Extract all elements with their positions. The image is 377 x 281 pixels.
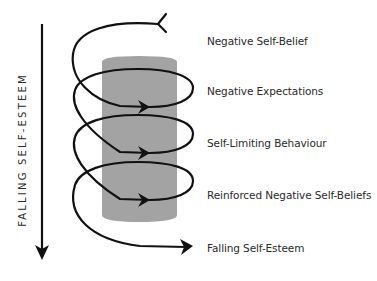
axis-label: FALLING SELF-ESTEEM xyxy=(17,73,28,227)
stage-label-self-limiting-behaviour: Self-Limiting Behaviour xyxy=(207,137,327,149)
stage-label-falling-self-esteem: Falling Self-Esteem xyxy=(207,242,304,254)
cylinder xyxy=(102,56,177,222)
stage-label-negative-self-belief: Negative Self-Belief xyxy=(207,35,308,47)
falling-arrow xyxy=(35,24,49,260)
stage-label-negative-expectations: Negative Expectations xyxy=(207,85,323,97)
stage-label-reinforced-beliefs: Reinforced Negative Self-Beliefs xyxy=(207,189,371,201)
